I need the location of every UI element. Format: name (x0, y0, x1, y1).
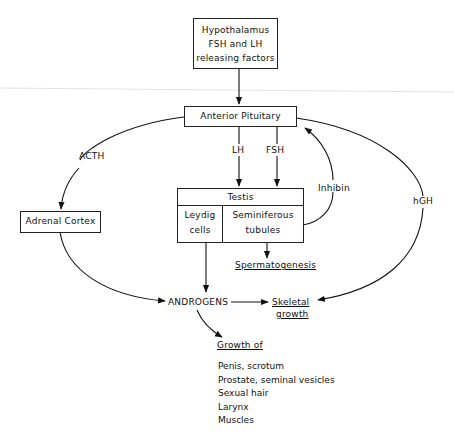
lh-label: LH (232, 145, 244, 156)
growth-of-list: Penis, scrotum Prostate, seminal vesicle… (218, 360, 335, 428)
growth-of-item: Muscles (218, 414, 335, 428)
acth-label: ACTH (79, 151, 104, 162)
testis-box: Testis Leydig cells Seminiferous tubules (177, 188, 304, 243)
inhibin-label: Inhibin (318, 183, 350, 194)
leydig-cells-cell: Leydig cells (178, 206, 222, 242)
spermatogenesis-label: Spermatogenesis (235, 260, 316, 271)
seminiferous-line-1: Seminiferous (223, 210, 303, 221)
anterior-pituitary-box: Anterior Pituitary (184, 106, 297, 127)
adrenal-cortex-label: Adrenal Cortex (21, 216, 100, 227)
leydig-line-2: cells (178, 225, 222, 236)
growth-of-item: Larynx (218, 401, 335, 415)
skeletal-growth-line-1: Skeletal (272, 297, 309, 308)
scan-artifact-line (0, 88, 454, 92)
arrow-hgh (318, 208, 423, 300)
arrow-acth (61, 168, 79, 209)
androgens-label: ANDROGENS (168, 297, 228, 308)
growth-of-title: Growth of (217, 340, 263, 351)
adrenal-cortex-box: Adrenal Cortex (20, 211, 101, 233)
seminiferous-line-2: tubules (223, 225, 303, 236)
arrow-inhibin (305, 128, 333, 180)
growth-of-item: Penis, scrotum (218, 360, 335, 374)
seminiferous-tubules-cell: Seminiferous tubules (223, 206, 303, 242)
arrow-adrenal-to-androgens (60, 232, 165, 301)
leydig-line-1: Leydig (178, 210, 222, 221)
fsh-label: FSH (266, 145, 284, 156)
skeletal-growth-line-2: growth (276, 309, 309, 320)
hypothalamus-line-3: releasing factors (194, 53, 277, 64)
hypothalamus-line-2: FSH and LH (194, 39, 277, 50)
testis-header: Testis (178, 192, 303, 203)
growth-of-item: Prostate, seminal vesicles (218, 374, 335, 388)
growth-of-item: Sexual hair (218, 387, 335, 401)
hypothalamus-box: Hypothalamus FSH and LH releasing factor… (193, 18, 278, 69)
hypothalamus-line-1: Hypothalamus (194, 25, 277, 36)
arrow-androgens-to-growth (197, 310, 222, 337)
hgh-label: hGH (413, 196, 433, 207)
anterior-pituitary-label: Anterior Pituitary (185, 111, 296, 122)
